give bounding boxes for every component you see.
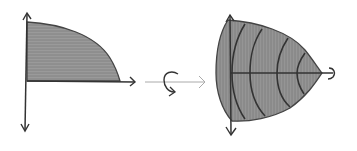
shaded-region [27, 22, 120, 81]
diagram-canvas [0, 0, 357, 151]
solid-vertical-axis [230, 15, 231, 134]
region-panel [21, 13, 135, 131]
y-axis [25, 14, 27, 130]
rotation-panel [145, 72, 205, 96]
solid-panel [216, 15, 334, 135]
x-axis [27, 81, 135, 82]
